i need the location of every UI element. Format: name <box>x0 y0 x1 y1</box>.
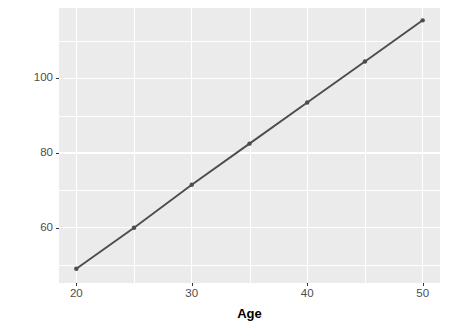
x-axis-title: Age <box>59 306 440 321</box>
data-point <box>420 18 424 22</box>
data-point <box>74 267 78 271</box>
x-tick-label: 30 <box>185 288 198 300</box>
x-tick-mark <box>76 283 77 286</box>
plot-panel <box>59 8 440 283</box>
x-tick-mark <box>307 283 308 286</box>
data-point <box>247 141 251 145</box>
data-point <box>190 183 194 187</box>
y-tick-label: 80 <box>40 147 53 159</box>
x-tick-mark <box>192 283 193 286</box>
y-tick-mark <box>56 153 59 154</box>
y-tick-mark <box>56 228 59 229</box>
x-tick-label: 20 <box>70 288 83 300</box>
y-tick-mark <box>56 78 59 79</box>
x-tick-label: 50 <box>416 288 429 300</box>
chart-container: 6080100 20304050 Age Logit <box>0 0 461 336</box>
y-tick-label: 100 <box>34 72 53 84</box>
data-layer <box>59 8 440 283</box>
x-tick-label: 40 <box>301 288 314 300</box>
data-point <box>305 100 309 104</box>
y-tick-label: 60 <box>40 222 53 234</box>
x-tick-mark <box>423 283 424 286</box>
data-point <box>363 59 367 63</box>
data-point <box>132 226 136 230</box>
